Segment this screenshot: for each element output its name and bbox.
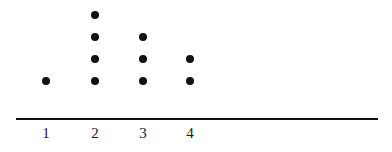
data-dot (139, 33, 147, 41)
x-axis-tick-label-4: 4 (186, 126, 194, 141)
data-dot (186, 77, 194, 85)
data-dot (91, 55, 99, 63)
data-dot (91, 11, 99, 19)
data-dot (91, 77, 99, 85)
data-dot (42, 77, 50, 85)
data-dot (139, 55, 147, 63)
plot-area: 1 2 3 4 (0, 0, 392, 152)
dot-plot-chart: 1 2 3 4 (0, 0, 392, 152)
data-dot (186, 55, 194, 63)
data-dot (139, 77, 147, 85)
x-axis-tick-label-3: 3 (139, 126, 147, 141)
data-dot (91, 33, 99, 41)
x-axis-tick-label-2: 2 (91, 126, 99, 141)
x-axis-line (16, 118, 378, 120)
x-axis-tick-label-1: 1 (42, 126, 50, 141)
